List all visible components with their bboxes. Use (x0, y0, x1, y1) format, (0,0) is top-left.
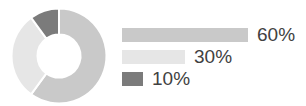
donut-plot (0, 0, 118, 106)
legend-label: 10% (152, 72, 190, 86)
donut-chart: 60% 30% 10% (0, 0, 306, 106)
legend-row: 60% (122, 28, 295, 42)
legend-row: 10% (122, 72, 295, 86)
legend-label: 30% (194, 50, 232, 64)
chart-legend: 60% 30% 10% (122, 28, 295, 94)
legend-bar (122, 50, 185, 64)
legend-label: 60% (257, 28, 295, 42)
legend-bar (122, 28, 248, 42)
legend-bar (122, 72, 143, 86)
legend-row: 30% (122, 50, 295, 64)
